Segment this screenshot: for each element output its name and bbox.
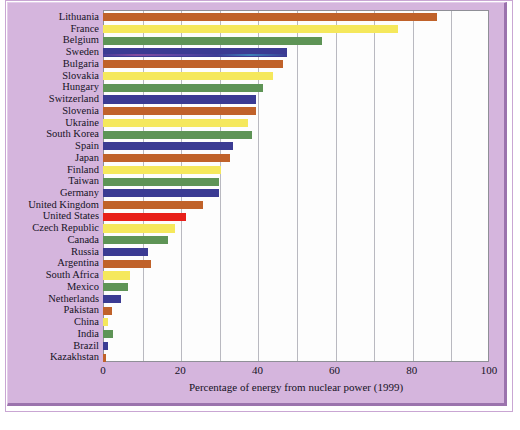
bar-lithuania: [103, 13, 437, 21]
bar-japan: [103, 154, 230, 162]
x-axis-label: Percentage of energy from nuclear power …: [103, 381, 489, 393]
bar-finland: [103, 166, 221, 174]
bar-united-kingdom: [103, 201, 203, 209]
chart-figure: LithuaniaFranceBelgiumSwedenBulgariaSlov…: [0, 0, 520, 430]
bar-czech-republic: [103, 224, 175, 232]
bar-south-korea: [103, 131, 252, 139]
bar-china: [103, 318, 108, 326]
bar-hungary: [103, 84, 263, 92]
bar-pakistan: [103, 307, 112, 315]
bar-united-states: [103, 213, 186, 221]
scan-artifact: [103, 54, 287, 56]
x-tick-label: 20: [160, 364, 200, 376]
x-tick-label: 40: [237, 364, 277, 376]
bar-belgium: [103, 37, 322, 45]
bar-bulgaria: [103, 60, 283, 68]
bar-germany: [103, 189, 219, 197]
x-tick-label: 60: [315, 364, 355, 376]
bar-slovenia: [103, 107, 256, 115]
bar-india: [103, 330, 113, 338]
bar-kazakhstan: [103, 354, 106, 362]
bar-spain: [103, 142, 233, 150]
bar-netherlands: [103, 295, 121, 303]
bar-argentina: [103, 260, 151, 268]
bar-france: [103, 25, 398, 33]
x-tick-label: 0: [83, 364, 123, 376]
x-tick-label: 100: [469, 364, 509, 376]
bar-canada: [103, 236, 168, 244]
bar-switzerland: [103, 95, 256, 103]
x-tick-label: 80: [392, 364, 432, 376]
bar-brazil: [103, 342, 108, 350]
bar-rows: LithuaniaFranceBelgiumSwedenBulgariaSlov…: [0, 10, 520, 362]
bar-slovakia: [103, 72, 273, 80]
bar-mexico: [103, 283, 128, 291]
x-axis-ticks: 020406080100: [0, 362, 520, 380]
bar-russia: [103, 248, 148, 256]
bar-south-africa: [103, 271, 130, 279]
bar-ukraine: [103, 119, 248, 127]
bar-taiwan: [103, 178, 219, 186]
